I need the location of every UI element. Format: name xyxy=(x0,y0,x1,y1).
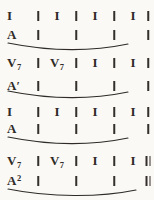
harmony-row: V7V7II xyxy=(0,56,154,70)
roman-numeral: V7 xyxy=(7,56,21,71)
roman-numeral: I xyxy=(54,105,59,119)
roman-numeral: I xyxy=(92,56,97,70)
barline-stroke xyxy=(149,156,151,166)
roman-numeral: I xyxy=(7,105,12,119)
symbol-base: V xyxy=(7,55,16,70)
symbol-base: I xyxy=(92,55,97,70)
roman-numeral: I xyxy=(92,9,97,23)
barline xyxy=(37,30,39,40)
symbol-base: I xyxy=(130,55,135,70)
barline xyxy=(37,11,39,21)
barline xyxy=(75,58,77,68)
roman-numeral: I xyxy=(130,9,135,23)
roman-numeral: I xyxy=(92,154,97,168)
roman-numeral: I xyxy=(54,9,59,23)
barline xyxy=(37,176,39,186)
slur-curve xyxy=(8,43,128,50)
slur-curve xyxy=(8,91,128,98)
symbol-base: I xyxy=(92,8,97,23)
symbol-base: I xyxy=(130,104,135,119)
barline xyxy=(75,11,77,21)
phrase-slur xyxy=(0,88,154,102)
symbol-subscript: 7 xyxy=(17,160,21,170)
slur-curve xyxy=(8,137,128,144)
barline-stroke xyxy=(146,156,148,166)
roman-numeral: I xyxy=(92,105,97,119)
barline xyxy=(75,156,77,166)
symbol-subscript: 7 xyxy=(60,62,64,72)
roman-numeral: V7 xyxy=(50,154,64,169)
symbol-base: I xyxy=(7,8,12,23)
symbol-base: I xyxy=(92,104,97,119)
symbol-base: I xyxy=(92,153,97,168)
symbol-base: I xyxy=(7,104,12,119)
barline xyxy=(113,30,115,40)
barline xyxy=(75,124,77,134)
symbol-subscript: 7 xyxy=(17,62,21,72)
roman-numeral: I xyxy=(130,154,135,168)
roman-numeral: I xyxy=(130,105,135,119)
roman-numeral: I xyxy=(130,56,135,70)
symbol-base: I xyxy=(54,8,59,23)
barline-stroke xyxy=(146,176,148,186)
barline xyxy=(75,176,77,186)
phrase-slur xyxy=(0,40,154,54)
barline xyxy=(113,58,115,68)
symbol-subscript: 7 xyxy=(60,160,64,170)
barline xyxy=(147,11,149,21)
barline xyxy=(147,107,149,117)
symbol-base: I xyxy=(130,8,135,23)
double-barline xyxy=(146,176,151,186)
barline xyxy=(37,156,39,166)
barline xyxy=(37,58,39,68)
harmony-row: V7V7II xyxy=(0,154,154,168)
phrase-slur xyxy=(0,186,154,200)
barline xyxy=(113,124,115,134)
barline xyxy=(113,107,115,117)
barline xyxy=(147,124,149,134)
slur-curve xyxy=(8,189,136,196)
barline xyxy=(113,11,115,21)
roman-numeral: I xyxy=(7,9,12,23)
roman-numeral: V7 xyxy=(50,56,64,71)
barline xyxy=(113,176,115,186)
barline xyxy=(147,58,149,68)
barline xyxy=(37,107,39,117)
roman-numeral: V7 xyxy=(7,154,21,169)
barline xyxy=(37,124,39,134)
symbol-base: I xyxy=(130,153,135,168)
barline xyxy=(147,30,149,40)
barline xyxy=(113,156,115,166)
barline xyxy=(75,107,77,117)
musical-form-diagram: IIIIAV7V7IIA′IIIIAV7V7IIA2 xyxy=(0,0,154,200)
symbol-superscript: 2 xyxy=(17,173,21,183)
symbol-base: I xyxy=(54,104,59,119)
barline xyxy=(75,30,77,40)
symbol-base: V xyxy=(7,153,16,168)
phrase-slur xyxy=(0,134,154,148)
harmony-row: IIII xyxy=(0,105,154,119)
symbol-base: V xyxy=(50,55,59,70)
double-barline xyxy=(146,156,151,166)
symbol-base: V xyxy=(50,153,59,168)
harmony-row: IIII xyxy=(0,9,154,23)
barline-stroke xyxy=(149,176,151,186)
